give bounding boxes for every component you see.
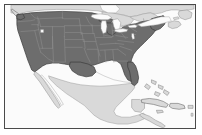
lake-erie [115, 29, 128, 33]
map-frame-border [4, 4, 196, 129]
lesser-antilles-islet [191, 113, 193, 116]
map-figure [0, 0, 202, 135]
north-america-map [5, 5, 195, 128]
puerto-rico [188, 105, 193, 108]
great-salt-lake [41, 30, 44, 33]
